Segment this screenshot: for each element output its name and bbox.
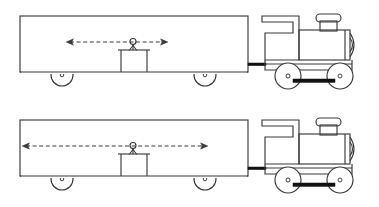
stick-figure-person bbox=[130, 39, 137, 51]
driving-wheel bbox=[327, 167, 353, 193]
connecting-rod bbox=[293, 79, 335, 82]
arrowhead-right bbox=[161, 39, 169, 45]
driving-wheel bbox=[275, 63, 301, 89]
coupler bbox=[248, 167, 266, 170]
bottom-train-diagram bbox=[0, 104, 379, 207]
boiler bbox=[299, 134, 350, 164]
coupler bbox=[248, 63, 266, 66]
boxcar-wheels bbox=[20, 62, 248, 86]
figure-root bbox=[0, 0, 379, 207]
long-double-arrow bbox=[22, 143, 208, 149]
connecting-rod bbox=[293, 183, 335, 186]
driving-wheel bbox=[275, 167, 301, 193]
boxcar-wheels bbox=[20, 166, 248, 190]
cab bbox=[262, 16, 299, 60]
cab bbox=[262, 120, 299, 164]
driving-wheel bbox=[327, 63, 353, 89]
steam-locomotive bbox=[262, 14, 354, 89]
steam-locomotive bbox=[262, 118, 354, 193]
arrowhead-right bbox=[201, 143, 209, 149]
stick-figure-person bbox=[130, 143, 137, 155]
boiler bbox=[299, 30, 350, 60]
top-train-diagram bbox=[0, 0, 379, 104]
short-double-arrow bbox=[66, 39, 168, 45]
